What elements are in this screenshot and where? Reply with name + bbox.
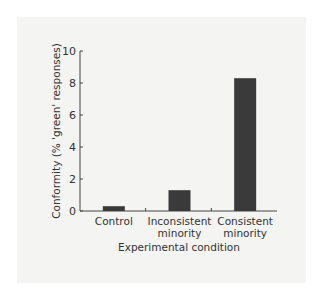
y-tick-label: 8: [69, 77, 76, 90]
y-axis-title: Conformity (% 'green' responses): [50, 43, 62, 219]
y-tick-label: 4: [69, 141, 76, 154]
x-category-label: Inconsistent: [148, 215, 212, 227]
bars: [103, 78, 256, 211]
x-axis-title: Experimental condition: [118, 241, 240, 253]
bar-control: [103, 206, 125, 211]
x-category-label: minority: [223, 227, 267, 239]
bar-chart: 0246810ControlInconsistentminorityConsis…: [0, 0, 316, 290]
bar-inconsistent-minority: [169, 190, 191, 211]
x-category-label: minority: [158, 227, 202, 239]
y-tick-label: 0: [69, 205, 76, 218]
x-category-label: Consistent: [217, 215, 273, 227]
y-tick-label: 6: [69, 109, 76, 122]
y-tick-label: 2: [69, 173, 76, 186]
y-tick-label: 10: [62, 45, 76, 58]
x-category-label: Control: [95, 215, 133, 227]
bar-consistent-minority: [234, 78, 256, 211]
